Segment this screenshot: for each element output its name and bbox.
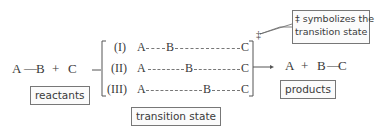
row-1-atom-b: B — [166, 40, 174, 55]
row-3-atom-b: B — [203, 82, 211, 97]
product-atom-a: A — [285, 58, 294, 74]
row-2-atom-c: C — [241, 61, 249, 76]
row-1-dash-bc — [175, 48, 240, 49]
product-atom-b: B — [317, 58, 326, 74]
row-1-numeral: (I) — [114, 40, 126, 55]
product-atom-c: C — [338, 58, 347, 74]
product-plus: + — [301, 58, 308, 74]
products-label: products — [280, 80, 336, 99]
row-1-atom-c: C — [241, 40, 249, 55]
row-3-atom-a: A — [137, 82, 146, 97]
transition-state-label: transition state — [131, 107, 221, 126]
row-3-numeral: (III) — [107, 82, 127, 97]
row-2-dash-ab — [148, 69, 184, 70]
row-1-atom-a: A — [137, 40, 146, 55]
row-3-dash-ab — [146, 90, 202, 91]
row-2-atom-b: B — [185, 61, 193, 76]
row-1-dash-ab — [146, 48, 165, 49]
double-dagger-symbol: ‡ — [256, 29, 261, 40]
callout-line-1: ‡ symbolizes the — [295, 12, 367, 25]
row-3-atom-c: C — [241, 82, 249, 97]
callout-line-2: transition state — [295, 25, 367, 38]
row-3-dash-bc — [212, 90, 240, 91]
row-2-numeral: (II) — [111, 61, 127, 76]
callout-box: ‡ symbolizes the transition state — [292, 10, 370, 44]
row-2-atom-a: A — [137, 61, 146, 76]
row-2-dash-bc — [194, 69, 240, 70]
